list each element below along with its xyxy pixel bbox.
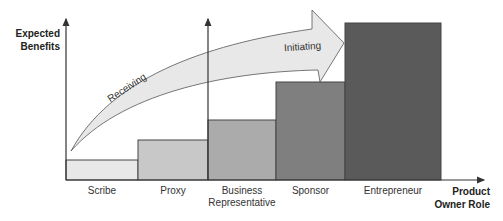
category-label-scribe: Scribe [66,185,138,197]
y-axis-title: Expected Benefits [5,27,60,53]
product-owner-role-diagram: Receiving Initiating Expected Benefits P… [0,0,503,221]
category-label-entrepreneur: Entrepreneur [345,185,441,197]
bar-proxy [138,140,208,180]
category-label-sponsor: Sponsor [276,185,345,197]
bar-entrepreneur [345,23,441,180]
category-label-business-representative: Business Representative [200,185,284,209]
category-label-proxy: Proxy [138,185,208,197]
bar-business-representative [208,120,276,180]
bar-scribe [66,160,138,180]
bar-sponsor [276,82,345,180]
